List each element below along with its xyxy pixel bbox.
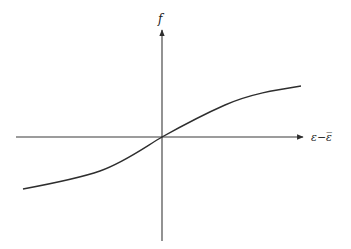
y-axis-label: f (157, 12, 165, 26)
diagram-canvas: f ε−ε̅ (0, 0, 351, 249)
x-axis-label: ε−ε̅ (311, 131, 332, 144)
